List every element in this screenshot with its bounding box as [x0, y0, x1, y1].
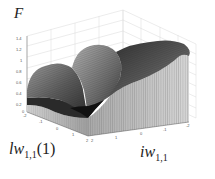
x-axis-label-subscript: 1,1	[24, 149, 37, 160]
y-axis-label: iw1,1	[140, 143, 168, 163]
z-tick: 0.4	[16, 92, 22, 96]
z-tick: 1.4	[16, 37, 22, 41]
x-tick: 2	[86, 139, 88, 143]
y-tick: 1	[115, 136, 117, 140]
y-axis-label-subscript: 1,1	[155, 152, 168, 163]
x-tick: -2	[23, 114, 27, 118]
y-tick: 2	[91, 139, 93, 143]
x-axis-label: lw1,1(1)	[9, 140, 55, 160]
z-tick: 0.6	[16, 81, 22, 85]
y-axis-label-base: iw	[140, 143, 155, 160]
z-tick: 1.2	[16, 48, 22, 52]
y-tick: -1	[163, 128, 167, 132]
z-tick: 0.2	[16, 103, 22, 107]
y-tick: -2	[186, 124, 190, 128]
x-tick: 0	[56, 127, 58, 131]
surface-plot-figure: 1.4 1.2 1 0.8 0.6 0.4 0.2 0 -2 -1 0 1 2 …	[0, 0, 215, 179]
x-tick: 1	[72, 133, 74, 137]
z-tick: 0.8	[16, 70, 22, 74]
x-axis-label-base: lw	[9, 140, 24, 157]
y-tick: 0	[140, 132, 142, 136]
z-tick: 1	[20, 59, 22, 63]
x-tick: -1	[39, 120, 43, 124]
x-axis-label-suffix: (1)	[37, 140, 56, 157]
z-axis-label: F	[14, 5, 23, 22]
